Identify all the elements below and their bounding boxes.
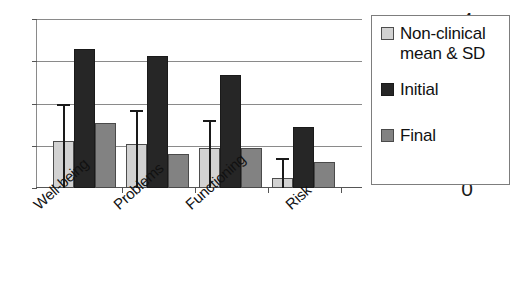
legend-label: Non-clinicalmean & SD xyxy=(400,24,485,64)
error-bar-cap xyxy=(130,110,143,112)
legend-swatch xyxy=(381,129,394,142)
legend-swatch xyxy=(381,83,394,96)
legend-item[interactable]: Final xyxy=(381,126,436,146)
error-bar xyxy=(272,158,293,188)
y-tick-mark xyxy=(32,19,37,20)
error-bar-cap xyxy=(276,158,289,160)
bar-chart-figure: 01234 Well-beingProblemsFunctioningRisk … xyxy=(0,0,517,294)
bar xyxy=(293,127,314,188)
legend-item[interactable]: Non-clinicalmean & SD xyxy=(381,24,485,64)
bar xyxy=(314,162,335,188)
error-bar-cap xyxy=(57,104,70,106)
x-tick-mark xyxy=(341,187,342,193)
legend-label: Final xyxy=(400,126,436,146)
legend-label: Initial xyxy=(400,80,438,100)
error-bar-cap xyxy=(203,120,216,122)
bar xyxy=(168,154,189,188)
bar xyxy=(241,148,262,188)
x-tick-mark xyxy=(268,187,269,193)
y-tick-mark xyxy=(32,188,37,189)
legend-swatch xyxy=(381,27,394,40)
legend-item[interactable]: Initial xyxy=(381,80,438,100)
grid-line xyxy=(36,19,362,20)
y-tick-mark xyxy=(32,146,37,147)
legend-box: Non-clinicalmean & SDInitialFinal xyxy=(371,15,510,185)
y-tick-mark xyxy=(32,61,37,62)
y-tick-mark xyxy=(32,104,37,105)
bar xyxy=(95,123,116,188)
error-bar-stem xyxy=(282,158,284,188)
